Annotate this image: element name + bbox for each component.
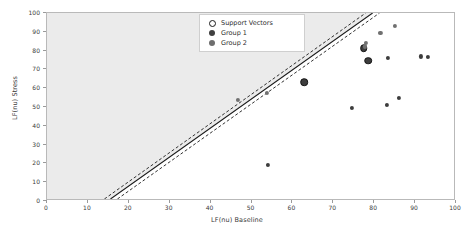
x-tick-mark bbox=[332, 200, 333, 203]
legend-item-group-2[interactable]: Group 2 bbox=[205, 38, 299, 48]
y-axis-label: LF(nu) Stress bbox=[11, 43, 19, 153]
x-tick-mark bbox=[291, 200, 292, 203]
x-axis-label: LF(nu) Baseline bbox=[0, 216, 474, 224]
y-tick-mark bbox=[43, 50, 46, 51]
x-tick-mark bbox=[373, 200, 374, 203]
x-tick-label: 20 bbox=[124, 204, 132, 211]
x-tick-label: 90 bbox=[410, 204, 418, 211]
y-tick-mark bbox=[43, 144, 46, 145]
legend-item-group-1[interactable]: Group 1 bbox=[205, 28, 299, 38]
x-tick-mark bbox=[128, 200, 129, 203]
filled-circle-icon bbox=[205, 40, 219, 46]
y-tick-mark bbox=[43, 162, 46, 163]
filled-circle-icon bbox=[205, 30, 219, 36]
y-tick-mark bbox=[43, 12, 46, 13]
x-tick-mark bbox=[46, 200, 47, 203]
x-tick-mark bbox=[414, 200, 415, 203]
y-tick-label: 0 bbox=[10, 197, 40, 204]
y-tick-label: 100 bbox=[10, 9, 40, 16]
y-tick-mark bbox=[43, 87, 46, 88]
y-tick-mark bbox=[43, 106, 46, 107]
y-tick-mark bbox=[43, 200, 46, 201]
legend-label-group-2: Group 2 bbox=[221, 39, 247, 47]
x-tick-mark bbox=[169, 200, 170, 203]
x-tick-label: 50 bbox=[247, 204, 255, 211]
scatter-chart-figure: 0102030405060708090100010203040506070809… bbox=[0, 0, 474, 238]
open-circle-icon bbox=[205, 20, 219, 27]
x-tick-label: 40 bbox=[206, 204, 214, 211]
x-tick-label: 0 bbox=[44, 204, 48, 211]
legend-label-group-1: Group 1 bbox=[221, 29, 247, 37]
x-tick-mark bbox=[87, 200, 88, 203]
legend-label-support-vectors: Support Vectors bbox=[221, 19, 273, 27]
chart-legend[interactable]: Support Vectors Group 1 Group 2 bbox=[199, 14, 305, 52]
support-vector-point bbox=[300, 78, 308, 86]
x-tick-label: 100 bbox=[449, 204, 460, 211]
x-tick-label: 70 bbox=[328, 204, 336, 211]
x-tick-mark bbox=[251, 200, 252, 203]
x-tick-mark bbox=[455, 200, 456, 203]
x-tick-mark bbox=[210, 200, 211, 203]
y-tick-label: 20 bbox=[10, 159, 40, 166]
legend-item-support-vectors[interactable]: Support Vectors bbox=[205, 18, 299, 28]
y-tick-mark bbox=[43, 68, 46, 69]
support-vector-point bbox=[365, 57, 373, 65]
y-tick-mark bbox=[43, 125, 46, 126]
y-tick-mark bbox=[43, 31, 46, 32]
y-tick-label: 90 bbox=[10, 27, 40, 34]
x-tick-label: 10 bbox=[83, 204, 91, 211]
x-tick-label: 60 bbox=[288, 204, 296, 211]
x-tick-label: 80 bbox=[369, 204, 377, 211]
x-tick-label: 30 bbox=[165, 204, 173, 211]
y-tick-mark bbox=[43, 181, 46, 182]
y-tick-label: 10 bbox=[10, 178, 40, 185]
